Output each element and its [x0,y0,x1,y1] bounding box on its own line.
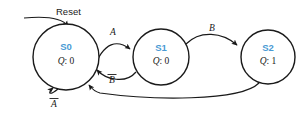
state-s1-output: Q: 0 [153,56,170,66]
state-s2-output-value: 1 [272,56,277,66]
state-s0-output: Q: 0 [58,56,75,66]
transition-s1-to-s2: B [186,23,237,45]
edge-label-s0-self-loop: A [50,99,57,109]
edge-label-s1-to-s2: B [209,23,215,33]
state-node-s2[interactable]: S2 Q: 1 [241,30,295,84]
state-node-s1[interactable]: S1 Q: 0 [133,29,189,85]
transition-s1-to-s0: B [97,70,136,85]
edge-s2-to-s0-path [89,83,259,98]
state-s2-output: Q: 1 [260,56,277,66]
state-s2-name: S2 [262,42,274,53]
edge-label-s0-to-s1: A [109,27,116,37]
state-s0-name: S0 [60,41,72,52]
state-s1-name: S1 [155,42,167,53]
transition-s0-self-loop: A [50,88,59,109]
state-s0-output-value: 0 [70,56,75,66]
state-s1-output-value: 0 [165,56,170,66]
state-node-s0[interactable]: S0 Q: 0 [33,24,99,90]
edge-label-s1-to-s0: B [109,75,115,85]
reset-label: Reset [56,6,81,17]
reset-transition: Reset [24,6,81,26]
edge-s1-to-s2-path [186,34,237,45]
fsm-canvas: Reset A B B A S0 [0,0,298,116]
transition-s2-to-s0 [89,83,259,98]
state-machine-diagram: Reset A B B A S0 [0,0,298,116]
